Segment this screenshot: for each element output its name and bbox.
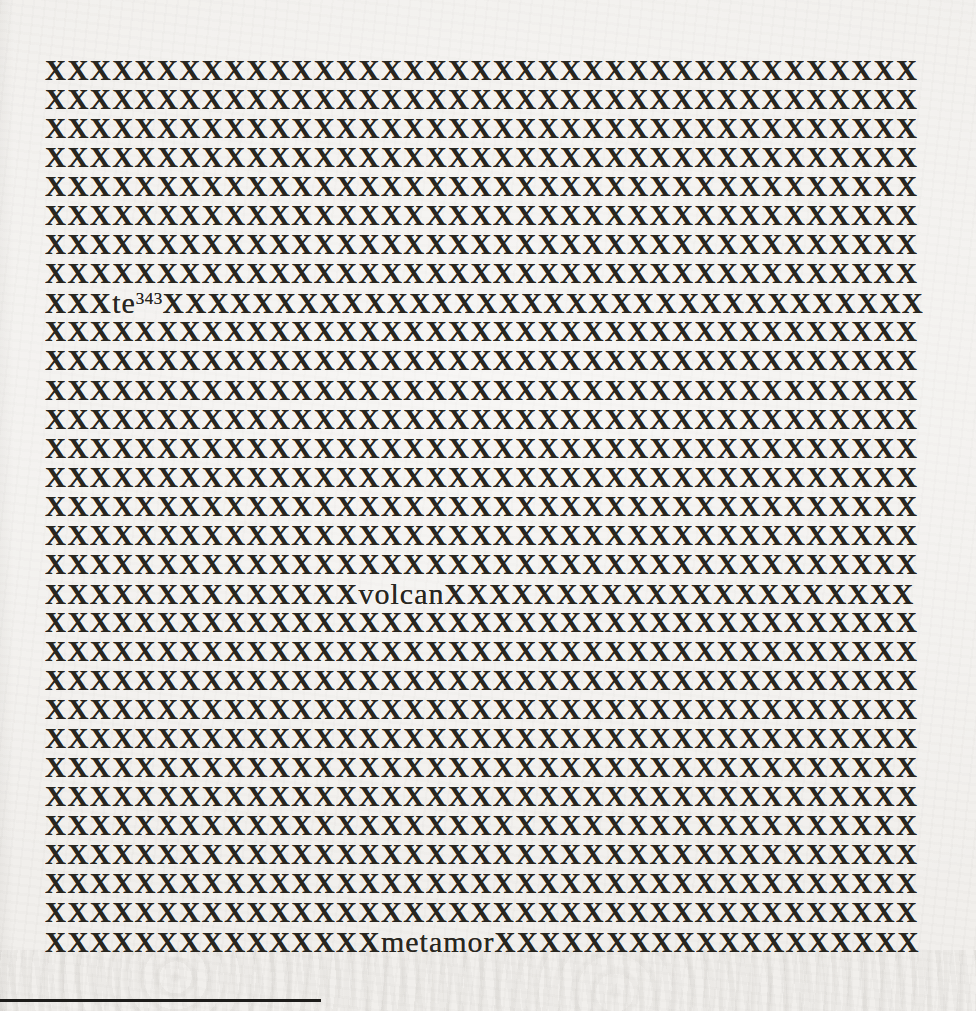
redacted-run: XXXXXXXXXXXXXXXXXXXXXXXXXXXXXXXXXXXXXXX bbox=[45, 374, 918, 406]
text-line: XXXXXXXXXXXXXXXXXXXXXXXXXXXXXXXXXXXXXXX bbox=[45, 550, 925, 579]
redacted-run: XXXXXXXXXXXXXXXXXXXXXXXXXXXXXXXXXXXXXXX bbox=[45, 606, 918, 638]
text-line: XXXXXXXXXXXXXXXXXXXXXXXXXXXXXXXXXXXXXXX bbox=[45, 346, 925, 375]
redacted-run: XXXXXXXXXXXXXXXXXXXXXXXXXXXXXXXXXXXXXXX bbox=[45, 432, 918, 464]
text-line: XXXXXXXXXXXXXXXXXXXXXXXXXXXXXXXXXXXXXXX bbox=[45, 201, 925, 230]
text-line: XXXXXXXXXXXXXXXXXXXXXXXXXXXXXXXXXXXXXXX bbox=[45, 521, 925, 550]
visible-word: metamor bbox=[381, 925, 495, 958]
redacted-run: XXXXXXXXXXXXXXXXXXXXXXXXXXXXXXXXXXXXXXX bbox=[45, 228, 918, 260]
text-line: XXXXXXXXXXXXXXvolcanXXXXXXXXXXXXXXXXXXXX… bbox=[45, 579, 925, 608]
redacted-run: XXXXXXXXXXXXXXXXXXXXXXXXXXXXXXXXXXXXXXX bbox=[45, 664, 918, 696]
redacted-run: XXXXXXXXXXXXXXXXXXXXXXXXXXXXXXXXXXXXXXX bbox=[45, 490, 918, 522]
redacted-run: XXXXXXXXXXXXXXXXXXXXXXXXXXXXXXXXXXXXXXX bbox=[45, 199, 918, 231]
text-line: XXXXXXXXXXXXXXXXXXXXXXXXXXXXXXXXXXXXXXX bbox=[45, 492, 925, 521]
text-line: XXXXXXXXXXXXXXXXXXXXXXXXXXXXXXXXXXXXXXX bbox=[45, 172, 925, 201]
text-line: XXXXXXXXXXXXXXXXXXXXXXXXXXXXXXXXXXXXXXX bbox=[45, 405, 925, 434]
redacted-text-block: XXXXXXXXXXXXXXXXXXXXXXXXXXXXXXXXXXXXXXXX… bbox=[45, 56, 925, 956]
text-line: XXXXXXXXXXXXXXXXXXXXXXXXXXXXXXXXXXXXXXX bbox=[45, 724, 925, 753]
text-line: XXXXXXXXXXXXXXXXXXXXXXXXXXXXXXXXXXXXXXX bbox=[45, 898, 925, 927]
redacted-run: XXXXXXXXXXXXXXXXXXXXXXXXXXXXXXXXXXXXXXX bbox=[45, 635, 918, 667]
redacted-run: XXXXXXXXXXXXXXX bbox=[45, 926, 381, 958]
text-line: XXXte343XXXXXXXXXXXXXXXXXXXXXXXXXXXXXXXX… bbox=[45, 288, 925, 317]
text-line: XXXXXXXXXXXXXXXXXXXXXXXXXXXXXXXXXXXXXXX bbox=[45, 259, 925, 288]
text-line: XXXXXXXXXXXXXXXXXXXXXXXXXXXXXXXXXXXXXXX bbox=[45, 376, 925, 405]
text-line: XXXXXXXXXXXXXXXXXXXXXXXXXXXXXXXXXXXXXXX bbox=[45, 840, 925, 869]
redacted-run: XXXXXXXXXXXXXXXXXXXXXXXXXXXXXXXXXXXXXXX bbox=[45, 896, 918, 928]
text-line: XXXXXXXXXXXXXXXmetamorXXXXXXXXXXXXXXXXXX… bbox=[45, 927, 925, 956]
text-line: XXXXXXXXXXXXXXXXXXXXXXXXXXXXXXXXXXXXXXX bbox=[45, 666, 925, 695]
redacted-run: XXXXXXXXXXXXXXXXXXXXXXXXXXXXXXXXXXXXXXX bbox=[45, 838, 918, 870]
redacted-run: XXXXXXXXXXXXXXXXXXXXXXXXXXXXXXXXXXXXXXX bbox=[45, 519, 918, 551]
redacted-run: XXXXXXXXXXXXXXXXXXXXXXXXXXXXXXXXXXXXXXX bbox=[45, 780, 918, 812]
scan-noise-band bbox=[0, 950, 976, 1011]
text-line: XXXXXXXXXXXXXXXXXXXXXXXXXXXXXXXXXXXXXXX bbox=[45, 114, 925, 143]
text-line: XXXXXXXXXXXXXXXXXXXXXXXXXXXXXXXXXXXXXXX bbox=[45, 782, 925, 811]
visible-word: volcan bbox=[359, 577, 445, 610]
text-line: XXXXXXXXXXXXXXXXXXXXXXXXXXXXXXXXXXXXXXX bbox=[45, 56, 925, 85]
redacted-run: XXXXXXXXXXXXXXXXXXXXXXXXXXXXXXXXXXXXXXX bbox=[45, 548, 918, 580]
footnote-reference: 343 bbox=[136, 289, 163, 308]
redacted-run: XXXXXXXXXXXXXXXXXXXXXXXXXXXXXXXXXXXXXXX bbox=[45, 112, 918, 144]
text-line: XXXXXXXXXXXXXXXXXXXXXXXXXXXXXXXXXXXXXXX bbox=[45, 143, 925, 172]
visible-word: te bbox=[112, 286, 136, 319]
redacted-run: XXXXXXXXXXXXXXXXXXXXXXXXXXXXXXXXXXXXXXX bbox=[45, 809, 918, 841]
text-line: XXXXXXXXXXXXXXXXXXXXXXXXXXXXXXXXXXXXXXX bbox=[45, 695, 925, 724]
redacted-run: XXXXXXXXXXXXXXXXXXXXXXXXXXXXXXXXXXXXXXX bbox=[45, 722, 918, 754]
text-line: XXXXXXXXXXXXXXXXXXXXXXXXXXXXXXXXXXXXXXX bbox=[45, 434, 925, 463]
footnote-rule bbox=[0, 999, 321, 1002]
redacted-run: XXXXXXXXXXXXXXXXXXXXXXXXXXXXXXXXXXXXXXX bbox=[45, 344, 918, 376]
text-line: XXXXXXXXXXXXXXXXXXXXXXXXXXXXXXXXXXXXXXX bbox=[45, 869, 925, 898]
redacted-run: XXXXXXXXXXXXXXXXXXXXXXXXXXXXXXXXXXXXXXX bbox=[45, 693, 918, 725]
redacted-run: XXXXXXXXXXXXXXXXXXXXXXXXXXXXXXXXXXXXXXX bbox=[45, 461, 918, 493]
redacted-run: XXXXXXXXXXXXXXXXXXXXXXXXXXXXXXXXXXXXXXX bbox=[45, 83, 918, 115]
text-line: XXXXXXXXXXXXXXXXXXXXXXXXXXXXXXXXXXXXXXX bbox=[45, 230, 925, 259]
redacted-run: XXXXXXXXXXXXXXXXXXXXXXXXXXXXXXXXXXXXXXX bbox=[45, 403, 918, 435]
text-line: XXXXXXXXXXXXXXXXXXXXXXXXXXXXXXXXXXXXXXX bbox=[45, 811, 925, 840]
text-line: XXXXXXXXXXXXXXXXXXXXXXXXXXXXXXXXXXXXXXX bbox=[45, 608, 925, 637]
redacted-run: XXXXXXXXXXXXXXXXXXXXXXXXXXXXXXXXXXXXXXX bbox=[45, 315, 918, 347]
redacted-run: XXXXXXXXXXXXXXXXXXX bbox=[495, 926, 920, 958]
redacted-run: XXXXXXXXXXXXXXXXXXXXXXXXXXXXXXXXXXXXXXX bbox=[45, 170, 918, 202]
text-line: XXXXXXXXXXXXXXXXXXXXXXXXXXXXXXXXXXXXXXX bbox=[45, 637, 925, 666]
redacted-run: XXXXXXXXXXXXXXXXXXXXXXXXXXXXXXXXXXXXXXX bbox=[45, 867, 918, 899]
redacted-run: XXXXXXXXXXXXXXXXXXXXXXXXXXXXXXXXXXXXXXX bbox=[45, 257, 918, 289]
redacted-run: XXXXXXXXXXXXXXXXXXXXXXXXXXXXXXXXXXXXXXX bbox=[45, 54, 918, 86]
text-line: XXXXXXXXXXXXXXXXXXXXXXXXXXXXXXXXXXXXXXX bbox=[45, 753, 925, 782]
redacted-run: XXXXXXXXXXXXXXXXXXXXXXXXXXXXXXXXXXXXXXX bbox=[45, 751, 918, 783]
redacted-run: XXXXXXXXXXXXXXXXXXXXXXXXXXXXXXXXXXXXXXX bbox=[45, 141, 918, 173]
text-line: XXXXXXXXXXXXXXXXXXXXXXXXXXXXXXXXXXXXXXX bbox=[45, 317, 925, 346]
text-line: XXXXXXXXXXXXXXXXXXXXXXXXXXXXXXXXXXXXXXX bbox=[45, 463, 925, 492]
text-line: XXXXXXXXXXXXXXXXXXXXXXXXXXXXXXXXXXXXXXX bbox=[45, 85, 925, 114]
